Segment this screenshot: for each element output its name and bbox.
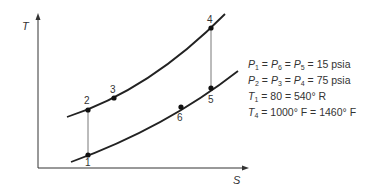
condition-t4: T4 = 1000° F = 1460° F — [248, 106, 356, 122]
x-axis-label: S — [233, 174, 241, 186]
state-point-4 — [208, 25, 213, 30]
point-label-4: 4 — [207, 14, 213, 25]
condition-high-pressure: P2 = P3 = P4 = 75 psia — [248, 74, 356, 90]
point-label-6: 6 — [177, 112, 183, 123]
y-axis-arrow-icon — [36, 13, 41, 20]
y-axis-label: T — [22, 20, 30, 32]
t4-value: 1000° F = 1460° F — [270, 106, 356, 118]
point-label-5: 5 — [208, 94, 214, 105]
point-label-1: 1 — [85, 157, 91, 168]
low-pressure-value: 15 psia — [317, 58, 351, 70]
high-pressure-curve — [67, 14, 225, 117]
t1-value: 80 = 540° R — [270, 90, 326, 102]
state-point-6 — [178, 104, 183, 109]
condition-low-pressure: P1 = P6 = P5 = 15 psia — [248, 58, 356, 74]
low-pressure-curve — [71, 71, 238, 162]
state-point-5 — [208, 85, 213, 90]
high-pressure-value: 75 psia — [317, 74, 351, 86]
conditions-legend: P1 = P6 = P5 = 15 psia P2 = P3 = P4 = 75… — [248, 58, 356, 122]
point-label-3: 3 — [110, 84, 116, 95]
state-point-2 — [85, 107, 90, 112]
state-point-3 — [111, 95, 116, 100]
x-axis-arrow-icon — [242, 166, 249, 171]
point-label-2: 2 — [84, 95, 90, 106]
condition-t1: T1 = 80 = 540° R — [248, 90, 356, 106]
